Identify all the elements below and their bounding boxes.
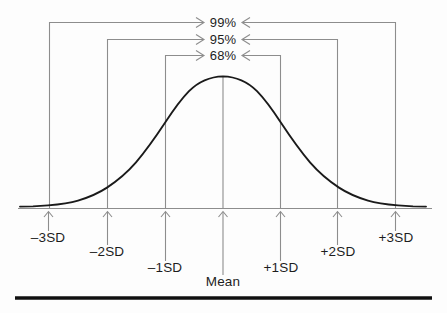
axis-arrow-minus-2sd <box>103 212 112 246</box>
bracket-label-68: 68% <box>210 49 236 62</box>
axis-label-minus-2sd: –2SD <box>90 245 125 259</box>
bracket-label-95: 95% <box>210 33 236 46</box>
normal-distribution-figure: 99% 95% 68% –3SD –2SD –1SD Mean +1SD +2S… <box>0 0 447 313</box>
axis-label-plus-2sd: +2SD <box>321 245 356 259</box>
axis-arrow-mean <box>219 212 228 276</box>
axis-label-minus-3sd: –3SD <box>31 231 66 245</box>
axis-arrow-minus-1sd <box>161 212 170 262</box>
axis-arrow-plus-2sd <box>333 212 342 246</box>
axis-label-mean: Mean <box>206 275 241 289</box>
axis-arrow-minus-3sd <box>44 212 53 232</box>
axis-label-plus-1sd: +1SD <box>264 261 299 275</box>
axis-arrow-plus-3sd <box>391 212 400 232</box>
axis-label-plus-3sd: +3SD <box>379 231 414 245</box>
bracket-label-99: 99% <box>210 16 236 29</box>
axis-arrow-plus-1sd <box>276 212 285 262</box>
axis-label-minus-1sd: –1SD <box>148 261 183 275</box>
axis-tick-arrows <box>44 212 400 276</box>
